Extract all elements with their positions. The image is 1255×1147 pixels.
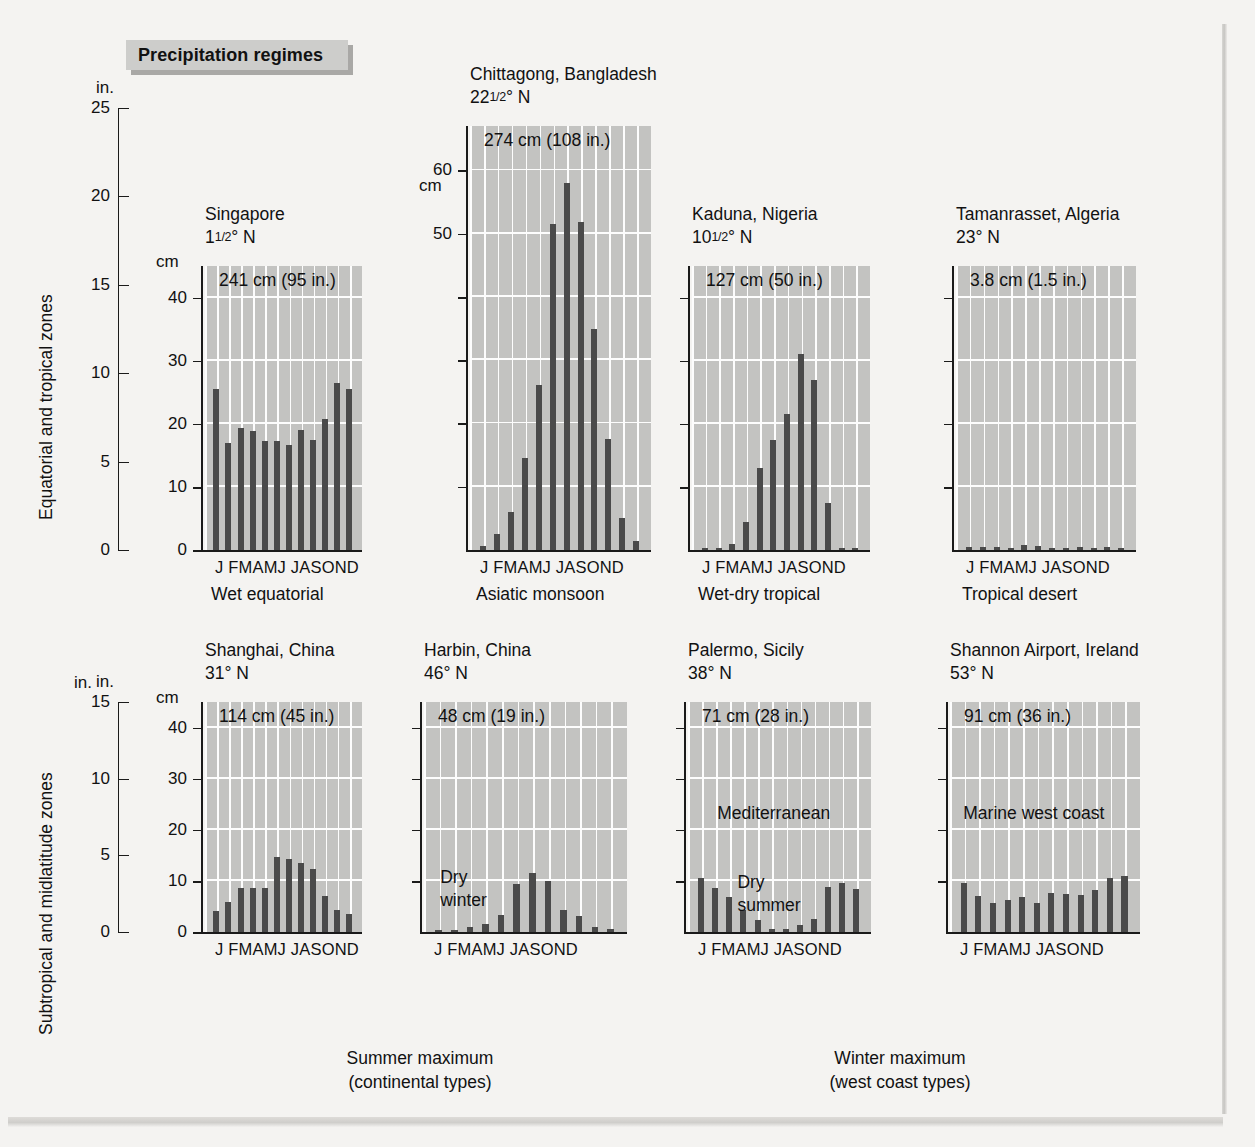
plot-note-palermo-0: Mediterranean [717, 802, 830, 825]
group-caption-2: Winter maximum (west coast types) [740, 1046, 1060, 1094]
master-axis-tick [118, 932, 129, 933]
master-axis-tick [118, 702, 129, 703]
master-axis-label-10: 10 [74, 769, 110, 789]
annual-total-tamanrasset: 3.8 cm (1.5 in.) [970, 270, 1087, 291]
master-axis-label-15: 15 [74, 692, 110, 712]
bottom-row-unit-in: in. [74, 673, 92, 693]
annual-total-singapore: 241 cm (95 in.) [219, 270, 336, 291]
annual-total-kaduna: 127 cm (50 in.) [706, 270, 823, 291]
master-axis-tick [118, 779, 129, 780]
annual-total-shanghai: 114 cm (45 in.) [219, 706, 334, 727]
master-axis-bottom: 151050in. [0, 0, 1255, 1147]
master-axis-tick [118, 855, 129, 856]
annual-total-palermo: 71 cm (28 in.) [702, 706, 809, 727]
annual-total-chittagong: 274 cm (108 in.) [484, 130, 610, 151]
precipitation-regimes-figure: Precipitation regimes Equatorial and tro… [0, 0, 1255, 1147]
group-caption-1: Summer maximum (continental types) [260, 1046, 580, 1094]
master-axis-label-5: 5 [74, 845, 110, 865]
annual-total-shannon: 91 cm (36 in.) [964, 706, 1071, 727]
plot-note-palermo-1: Dry summer [737, 871, 800, 917]
master-axis-bracket-bottom [118, 702, 119, 932]
plot-note-harbin-0: Dry winter [440, 866, 487, 912]
annual-total-harbin: 48 cm (19 in.) [438, 706, 545, 727]
master-axis-label-0: 0 [74, 922, 110, 942]
plot-note-shannon-0: Marine west coast [963, 802, 1104, 825]
